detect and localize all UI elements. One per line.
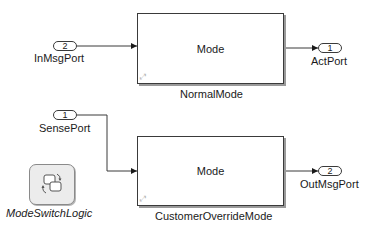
inport-inmsgport-label: InMsgPort <box>34 52 84 64</box>
model-reference-link-icon: ⤢ <box>140 72 146 82</box>
stateflow-chart-icon <box>29 164 75 205</box>
outport-actport-label: ActPort <box>311 55 347 67</box>
normalmode-block[interactable]: Mode ⤢ <box>137 13 284 84</box>
inport-inmsgport[interactable]: 2 <box>53 41 77 51</box>
outport-outmsgport[interactable]: 2 <box>318 166 342 176</box>
modeswitchlogic-label: ModeSwitchLogic <box>6 207 92 219</box>
customeroverridemode-block[interactable]: Mode ⤢ <box>137 136 284 206</box>
outport-actport[interactable]: 1 <box>318 43 342 53</box>
normalmode-block-label: NormalMode <box>180 88 243 100</box>
normalmode-block-title: Mode <box>138 43 283 55</box>
inport-senseport[interactable]: 1 <box>53 110 77 120</box>
customeroverridemode-block-label: CustomerOverrideMode <box>155 210 272 222</box>
outport-outmsgport-label: OutMsgPort <box>300 178 359 190</box>
customeroverridemode-block-title: Mode <box>138 165 283 177</box>
inport-senseport-label: SensePort <box>39 122 90 134</box>
modeswitchlogic-chart-block[interactable] <box>29 164 75 205</box>
model-reference-link-icon: ⤢ <box>140 194 146 204</box>
model-canvas[interactable]: 2 InMsgPort 1 SensePort Mode ⤢ NormalMod… <box>0 0 371 234</box>
